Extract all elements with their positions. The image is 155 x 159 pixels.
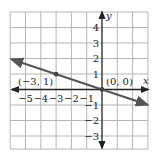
point-label-neg3-1: (−3, 1)	[18, 76, 53, 87]
svg-text:4: 4	[93, 22, 99, 33]
x-tick-labels: −5 −4 −3 −2 −1	[18, 93, 94, 104]
svg-text:−2: −2	[84, 115, 99, 126]
svg-text:3: 3	[93, 38, 99, 49]
svg-text:−4: −4	[33, 93, 48, 104]
coordinate-plane: y x (−3, 1) (0, 0) −5 −4 −3 −2 −1 4 3 2 …	[0, 0, 155, 159]
svg-text:−3: −3	[84, 131, 99, 142]
svg-text:1: 1	[93, 69, 99, 80]
svg-text:−1: −1	[84, 100, 99, 111]
svg-text:−3: −3	[49, 93, 64, 104]
x-axis-label: x	[143, 75, 149, 86]
point-neg3-1	[54, 72, 59, 77]
point-origin	[100, 87, 105, 92]
point-label-origin: (0, 0)	[106, 76, 133, 87]
svg-text:2: 2	[93, 53, 99, 64]
svg-text:−5: −5	[18, 93, 33, 104]
y-axis-label: y	[105, 10, 112, 21]
svg-text:−2: −2	[64, 93, 79, 104]
